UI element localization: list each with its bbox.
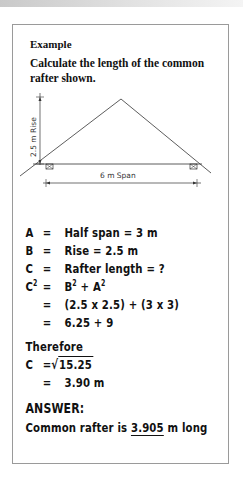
calc-line-result: =3.90 m [25, 375, 104, 390]
answer-heading: ANSWER: [25, 400, 84, 416]
answer-value: 3.905 [131, 420, 164, 435]
calc-line-a: A=Half span = 3 m [25, 225, 157, 240]
example-box: Example Calculate the length of the comm… [12, 24, 229, 464]
calc-line-sum: =6.25 + 9 [25, 315, 113, 330]
answer-text: Common rafter is 3.905 m long [25, 420, 207, 435]
calc-line-pythagoras: C2=B2 + A2 [25, 279, 105, 294]
sqrt-icon: √ [51, 357, 58, 372]
top-edge-strip [0, 0, 243, 7]
calculation-block: A=Half span = 3 m B=Rise = 2.5 m C=Rafte… [13, 25, 231, 465]
calc-line-b: B=Rise = 2.5 m [25, 243, 138, 258]
calc-line-c: C=Rafter length = ? [25, 261, 164, 276]
calc-line-sqrt: C=√15.25 [25, 357, 93, 372]
therefore-label: Therefore [25, 339, 83, 354]
calc-line-substitution: =(2.5 x 2.5) + (3 x 3) [25, 297, 179, 312]
